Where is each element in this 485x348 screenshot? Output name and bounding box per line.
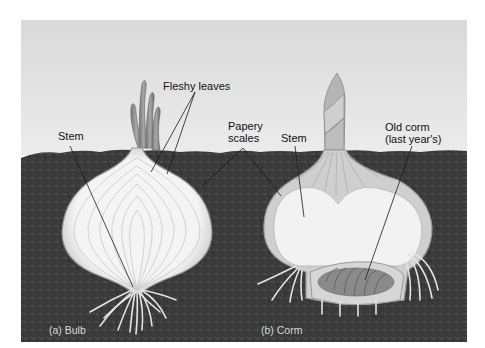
caption-corm: (b) Corm	[261, 324, 302, 336]
label-papery-scales-line1: Papery	[228, 120, 263, 132]
label-fleshy-leaves: Fleshy leaves	[163, 80, 230, 92]
corm-stem-tissue	[274, 187, 422, 266]
diagram-illustration	[0, 0, 485, 348]
label-old-corm-line2: (last year's)	[385, 133, 442, 145]
caption-bulb: (a) Bulb	[49, 324, 86, 336]
bulb-corm-diagram: Fleshy leaves Stem Papery scales Stem Ol…	[0, 0, 485, 348]
label-stem-bulb: Stem	[58, 130, 84, 142]
label-old-corm-line1: Old corm	[385, 121, 430, 133]
label-stem-corm: Stem	[281, 132, 307, 144]
label-papery-scales-line2: scales	[228, 132, 259, 144]
